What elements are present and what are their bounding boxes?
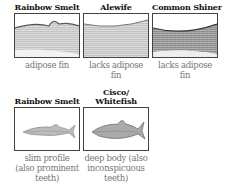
fish-no-adipose-icon [84, 14, 148, 57]
caption: lacks adipose fin [83, 60, 149, 80]
caption: lacks adipose fin [152, 60, 218, 80]
species-title: Alewife [83, 3, 149, 12]
fish-full-image [83, 107, 149, 151]
fish-closeup-image [14, 13, 80, 58]
fish-closeup-image [83, 13, 149, 58]
card-common-shiner: Common Shiner lacks adipose fin [152, 3, 218, 80]
caption: adipose fin [14, 60, 80, 70]
fish-closeup-image [152, 13, 218, 58]
fish-no-adipose-icon [153, 14, 217, 57]
card-rainbow-smelt-adipose: Rainbow Smelt adipose fin [14, 3, 80, 70]
species-title: Cisco/ Whitefish [83, 88, 149, 106]
card-alewife: Alewife lacks adipose fin [83, 3, 149, 80]
fish-full-image [14, 107, 80, 151]
card-rainbow-smelt-slim: Rainbow Smelt slim profile (also promine… [14, 97, 80, 183]
caption: deep body (also inconspicuous teeth) [83, 153, 149, 183]
species-title: Common Shiner [152, 3, 218, 12]
card-cisco-whitefish: Cisco/ Whitefish deep body (also inconsp… [83, 88, 149, 183]
slim-fish-icon [15, 108, 79, 150]
adipose-fin-fish-icon [15, 14, 79, 57]
species-title: Rainbow Smelt [14, 3, 80, 12]
deep-fish-icon [84, 108, 148, 150]
caption: slim profile (also prominent teeth) [14, 153, 80, 183]
species-title: Rainbow Smelt [14, 97, 80, 106]
